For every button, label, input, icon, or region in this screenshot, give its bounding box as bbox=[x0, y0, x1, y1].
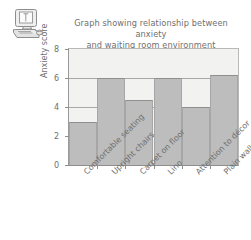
y-axis-tick: 8 bbox=[65, 49, 69, 50]
y-axis-tick: 6 bbox=[65, 78, 69, 79]
y-axis-tick-label: 0 bbox=[54, 160, 59, 169]
bar bbox=[182, 107, 210, 165]
y-axis-tick-label: 8 bbox=[54, 44, 59, 53]
y-axis-tick-label: 2 bbox=[54, 131, 59, 140]
y-axis-title: Anxiety score bbox=[40, 24, 49, 78]
y-axis-tick-label: 6 bbox=[54, 73, 59, 82]
plot-area: 02468 bbox=[68, 48, 239, 166]
y-axis-tick-label: 4 bbox=[54, 102, 59, 111]
y-axis-tick: 4 bbox=[65, 107, 69, 108]
bar-chart-figure: Anxiety score 02468 Comfortable seatingU… bbox=[0, 0, 251, 240]
